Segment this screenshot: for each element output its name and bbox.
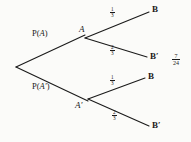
variable-a-prime: A′ [40,81,47,91]
node-label-a-prime: A′ [75,101,82,110]
probability-label-p-a-prime: P(A′) [32,82,49,91]
fraction-a-to-b-prime: 2 3 [110,45,115,57]
tree-branch-lines [0,0,191,142]
node-label-a: A [79,25,85,34]
variable-a: A [40,28,45,38]
result-denominator: 24 [172,59,180,66]
probability-tree-diagram: P(A) P(A′) A A′ 1 3 2 3 1 3 2 3 B B′ B B… [0,0,191,142]
leaf-label-b-lower: B [148,72,154,81]
leaf-label-b-top: B [152,5,158,14]
fraction-a-prime-to-b-prime: 2 3 [112,110,117,122]
line-a-prime-to-b [88,78,145,99]
line-root-to-a-prime [16,67,88,101]
fraction-denominator: 3 [110,80,115,86]
line-root-to-a [16,35,85,67]
fraction-denominator: 3 [110,50,115,56]
probability-label-p-a: P(A) [32,29,48,38]
fraction-denominator: 3 [112,115,117,121]
fraction-denominator: 3 [110,12,115,18]
leaf-label-b-prime-upper: B′ [150,52,159,61]
fraction-a-to-b: 1 3 [110,7,115,19]
fraction-a-prime-to-b: 1 3 [110,75,115,87]
result-fraction-annotation: 7 24 [172,53,180,67]
line-a-to-b [85,12,149,38]
line-a-prime-to-b-prime [88,99,149,126]
line-a-to-b-prime [85,38,147,57]
leaf-label-b-prime-bottom: B′ [152,121,161,130]
